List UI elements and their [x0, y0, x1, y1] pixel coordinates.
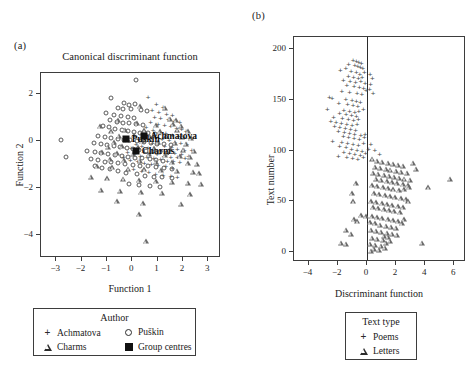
data-point [137, 182, 142, 187]
data-point [97, 124, 103, 129]
panel-b-plot-frame: ++++++++++++++++++++++++++++++++++++++++… [293, 36, 465, 261]
data-point [187, 154, 193, 159]
data-point [136, 178, 142, 183]
data-point [143, 239, 149, 244]
legend-item-puskin[interactable]: Puškin [122, 327, 164, 337]
data-point [104, 175, 110, 180]
data-point: + [352, 83, 357, 91]
data-point: + [351, 102, 356, 110]
x-tick-label: −2 [332, 267, 342, 277]
data-point: + [356, 142, 361, 150]
data-point [92, 150, 97, 155]
data-point: + [349, 146, 354, 154]
data-point: + [342, 129, 347, 137]
data-point [399, 221, 405, 226]
data-point [94, 164, 100, 169]
data-point: + [354, 113, 359, 121]
data-point: + [344, 111, 349, 119]
data-point: + [360, 65, 365, 73]
data-point: + [336, 128, 341, 136]
data-point: + [338, 124, 343, 132]
data-point: + [348, 126, 353, 134]
data-point: + [175, 174, 180, 182]
data-point [116, 133, 122, 138]
data-point [122, 127, 128, 132]
panel-a-plot-area: ++++++++++++++++++++++++++++++++++++++++… [41, 73, 219, 256]
data-point: + [358, 71, 363, 79]
data-point: + [340, 115, 345, 123]
data-point [140, 200, 146, 205]
data-point [96, 133, 101, 138]
data-point [144, 108, 149, 113]
data-point: + [356, 75, 361, 83]
plus-marker-icon: + [357, 331, 370, 342]
data-point [107, 118, 112, 123]
panel-b-y-axis-title: Text number [265, 155, 276, 206]
data-point: + [157, 109, 162, 117]
data-point: + [339, 120, 344, 128]
x-tick-label: −2 [76, 263, 86, 273]
data-point [191, 148, 197, 153]
data-point [115, 118, 121, 123]
data-point: + [350, 155, 355, 163]
panel-a-title: Canonical discriminant function [40, 51, 220, 62]
data-point [198, 181, 204, 186]
data-point: + [344, 82, 349, 90]
data-point [127, 121, 132, 126]
data-point [127, 102, 132, 107]
data-point: + [347, 150, 352, 158]
data-point [125, 166, 131, 171]
data-point [88, 174, 94, 179]
data-point: + [358, 152, 363, 160]
data-point: + [351, 117, 356, 125]
data-point: + [175, 146, 180, 154]
legend-item-achmatova[interactable]: + Achmatova [41, 327, 101, 338]
legend-item-poems[interactable]: + Poems [357, 331, 398, 342]
data-point [120, 120, 125, 125]
legend-item-puskin-label: Puškin [135, 327, 164, 337]
data-point: + [162, 122, 167, 130]
data-point [114, 151, 120, 156]
legend-item-letters[interactable]: Letters [357, 346, 399, 356]
data-point: + [357, 136, 362, 144]
data-point [134, 172, 139, 177]
triangle-marker-icon [357, 348, 370, 355]
figure-root: (a) Canonical discriminant function ++++… [0, 0, 471, 379]
data-point: + [359, 91, 364, 99]
x-tick-label: 2 [393, 267, 398, 277]
data-point: + [131, 166, 136, 174]
data-point: + [368, 81, 373, 89]
x-tick [131, 257, 132, 261]
data-point [394, 232, 400, 237]
data-point: + [370, 75, 375, 83]
y-tick [36, 187, 40, 188]
data-point: + [356, 156, 361, 164]
data-point [107, 157, 113, 162]
data-point [170, 122, 176, 127]
x-tick-label: −1 [101, 263, 111, 273]
data-point [58, 138, 63, 143]
data-point: + [359, 60, 364, 68]
data-point [100, 165, 105, 170]
legend-item-group-centres[interactable]: Group centres [122, 342, 192, 352]
data-point [194, 161, 200, 166]
data-point [174, 168, 180, 173]
data-point [136, 211, 142, 216]
data-point [447, 176, 453, 181]
data-point [125, 115, 130, 120]
data-point [91, 140, 96, 145]
legend-item-charms[interactable]: Charms [41, 342, 87, 352]
data-point [147, 157, 152, 162]
data-point [406, 185, 412, 190]
group-centre-label: Charms [142, 146, 175, 156]
x-tick-label: 3 [205, 263, 210, 273]
data-point: + [345, 140, 350, 148]
x-tick-label: 0 [364, 267, 369, 277]
data-point [134, 121, 140, 126]
x-tick-label: −3 [50, 263, 60, 273]
data-point [63, 154, 68, 159]
y-tick-label: 2 [6, 88, 33, 98]
data-point: + [350, 122, 355, 130]
data-point: + [343, 125, 348, 133]
data-point: + [361, 154, 366, 162]
